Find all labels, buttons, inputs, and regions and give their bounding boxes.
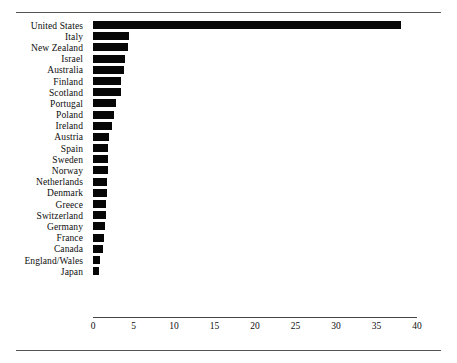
bar-category-label: Sweden <box>0 155 88 165</box>
bar-category-label: New Zealand <box>0 43 88 53</box>
bar-row: Spain <box>0 143 457 154</box>
bar-row: Australia <box>0 65 457 76</box>
bar-track <box>88 20 457 31</box>
bar-category-label: Australia <box>0 65 88 75</box>
bar-row: France <box>0 233 457 244</box>
bar-category-label: United States <box>0 21 88 31</box>
bar <box>93 189 107 197</box>
bar-track <box>88 110 457 121</box>
x-axis-tick-label: 15 <box>210 321 220 332</box>
bar-track <box>88 65 457 76</box>
bar-track <box>88 54 457 65</box>
x-axis: 0510152025303540 <box>0 317 457 347</box>
bar <box>93 211 106 219</box>
bar <box>93 178 107 186</box>
bar-category-label: Japan <box>0 267 88 277</box>
bar <box>93 267 99 275</box>
bar <box>93 155 108 163</box>
bar-category-label: Greece <box>0 200 88 210</box>
bar <box>93 234 104 242</box>
bar <box>93 166 108 174</box>
x-axis-tick-label: 5 <box>131 321 136 332</box>
x-axis-tick-label: 35 <box>372 321 382 332</box>
bar-row: Scotland <box>0 87 457 98</box>
x-axis-tick-label: 20 <box>250 321 260 332</box>
bar-track <box>88 154 457 165</box>
bar-track <box>88 143 457 154</box>
x-axis-tick-label: 40 <box>412 321 422 332</box>
bar-category-label: Portugal <box>0 99 88 109</box>
bar-track <box>88 98 457 109</box>
bar-category-label: Spain <box>0 144 88 154</box>
bar-track <box>88 31 457 42</box>
bar-row: Italy <box>0 31 457 42</box>
bar-row: United States <box>0 20 457 31</box>
bar-track <box>88 210 457 221</box>
bar-row: England/Wales <box>0 255 457 266</box>
bar-category-label: Canada <box>0 244 88 254</box>
bar-track <box>88 87 457 98</box>
bar-track <box>88 165 457 176</box>
x-axis-tick-label: 10 <box>169 321 179 332</box>
top-divider-rule <box>16 12 441 13</box>
bar <box>93 200 106 208</box>
x-axis-tick-label: 0 <box>91 321 96 332</box>
bar-row: Germany <box>0 221 457 232</box>
bar-category-label: Switzerland <box>0 211 88 221</box>
bar-track <box>88 244 457 255</box>
bar-category-label: Finland <box>0 77 88 87</box>
bar-row: Norway <box>0 165 457 176</box>
chart-figure: United StatesItalyNew ZealandIsraelAustr… <box>0 0 457 363</box>
bar-track <box>88 188 457 199</box>
bar-row: New Zealand <box>0 42 457 53</box>
bar <box>93 99 116 107</box>
bar-track <box>88 255 457 266</box>
bar-row: Japan <box>0 266 457 277</box>
bar-category-label: Norway <box>0 166 88 176</box>
bar-category-label: England/Wales <box>0 256 88 266</box>
bar-row: Portugal <box>0 98 457 109</box>
bar-category-label: Ireland <box>0 121 88 131</box>
x-axis-tick-label: 30 <box>331 321 341 332</box>
bar-row: Denmark <box>0 188 457 199</box>
bar <box>93 245 103 253</box>
bar-row: Netherlands <box>0 177 457 188</box>
plot-area: United StatesItalyNew ZealandIsraelAustr… <box>0 20 457 320</box>
bar-track <box>88 76 457 87</box>
bar-category-label: Netherlands <box>0 177 88 187</box>
bar <box>93 222 105 230</box>
bar-track <box>88 221 457 232</box>
bar <box>93 122 112 130</box>
bar <box>93 66 124 74</box>
x-axis-tick-label: 25 <box>291 321 301 332</box>
bar-track <box>88 233 457 244</box>
bar-row: Switzerland <box>0 210 457 221</box>
bar-track <box>88 199 457 210</box>
bar-category-label: Denmark <box>0 188 88 198</box>
bar-track <box>88 177 457 188</box>
bar <box>93 144 108 152</box>
bar-category-label: Israel <box>0 54 88 64</box>
bar <box>93 55 125 63</box>
bar-category-label: Scotland <box>0 88 88 98</box>
bar-category-label: Italy <box>0 32 88 42</box>
bar <box>93 133 109 141</box>
bar-row: Ireland <box>0 121 457 132</box>
bar-row: Sweden <box>0 154 457 165</box>
bar-track <box>88 121 457 132</box>
bar <box>93 256 100 264</box>
bar <box>93 77 121 85</box>
bar-row: Poland <box>0 110 457 121</box>
x-axis-line <box>93 317 417 318</box>
bar-category-label: France <box>0 233 88 243</box>
bar-row: Finland <box>0 76 457 87</box>
bar-track <box>88 42 457 53</box>
bar-row: Canada <box>0 244 457 255</box>
bar-row: Israel <box>0 54 457 65</box>
bar <box>93 21 401 29</box>
bar <box>93 88 121 96</box>
bar-category-label: Austria <box>0 132 88 142</box>
bottom-divider-rule <box>16 350 441 351</box>
bar <box>93 32 129 40</box>
bar <box>93 43 128 51</box>
